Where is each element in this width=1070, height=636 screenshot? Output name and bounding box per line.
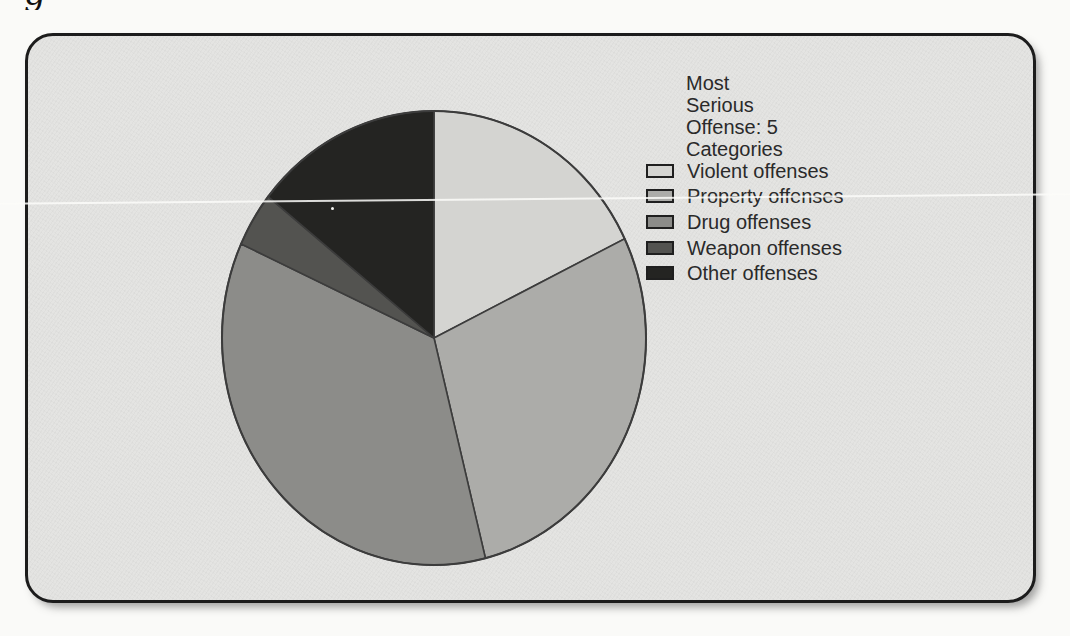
legend-label-other: Other offenses bbox=[687, 262, 818, 284]
legend-swatch-other bbox=[646, 266, 674, 280]
legend-swatch-violent bbox=[646, 164, 674, 178]
legend-label-violent: Violent offenses bbox=[687, 160, 829, 182]
legend-item-property: Property offenses bbox=[646, 184, 843, 210]
legend-label-weapon: Weapon offenses bbox=[687, 237, 842, 259]
legend-label-drug: Drug offenses bbox=[687, 211, 811, 233]
legend-swatch-drug bbox=[646, 215, 674, 229]
legend: Violent offenses Property offenses Drug … bbox=[646, 158, 843, 286]
legend-item-violent: Violent offenses bbox=[646, 158, 843, 184]
legend-item-weapon: Weapon offenses bbox=[646, 235, 843, 261]
legend-item-drug: Drug offenses bbox=[646, 209, 843, 235]
legend-label-property: Property offenses bbox=[687, 185, 843, 207]
legend-swatch-weapon bbox=[646, 241, 674, 255]
legend-title: Most Serious Offense: 5 Categories bbox=[686, 72, 786, 160]
legend-item-other: Other offenses bbox=[646, 260, 843, 286]
legend-swatch-property bbox=[646, 189, 674, 203]
